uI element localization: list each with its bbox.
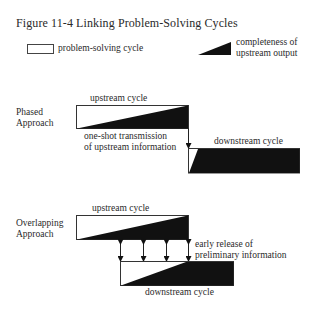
phased-approach-label-1: Phased: [16, 108, 43, 118]
phased-transmission-arrow: [189, 129, 201, 149]
legend-box-icon: [28, 45, 54, 54]
legend-triangle-label-1: completeness of: [236, 38, 297, 48]
overlapping-upstream-cycle: [77, 216, 189, 240]
overlapping-upstream-label: upstream cycle: [92, 204, 149, 214]
legend-triangle-label-2: upstream output: [236, 49, 297, 59]
overlapping-approach-label-2: Approach: [16, 230, 53, 240]
phased-downstream-label: downstream cycle: [214, 137, 283, 147]
overlapping-downstream-cycle: [121, 262, 234, 286]
early-release-arrows: [121, 242, 189, 259]
phased-transmission-label-2: of upstream information: [84, 143, 176, 153]
phased-upstream-label: upstream cycle: [90, 94, 147, 104]
phased-approach-label-2: Approach: [16, 119, 53, 129]
early-release-label-2: preliminary information: [195, 251, 287, 261]
legend-triangle-icon: [198, 42, 231, 55]
phased-downstream-cycle: [189, 149, 300, 174]
legend-box-label: problem-solving cycle: [58, 44, 143, 54]
early-release-label-1: early release of: [195, 240, 253, 250]
phased-transmission-label-1: one-shot transmission: [84, 132, 167, 142]
phased-upstream-cycle: [77, 106, 189, 129]
overlapping-approach-label-1: Overlapping: [16, 219, 64, 229]
overlapping-downstream-label: downstream cycle: [145, 288, 214, 298]
